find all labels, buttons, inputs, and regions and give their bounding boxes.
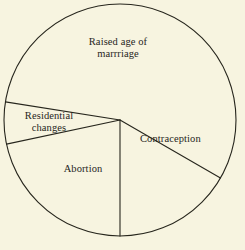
- pie-chart-canvas: [0, 0, 245, 250]
- pie-chart-figure: Raised age of marrriage Contraception Re…: [0, 0, 245, 250]
